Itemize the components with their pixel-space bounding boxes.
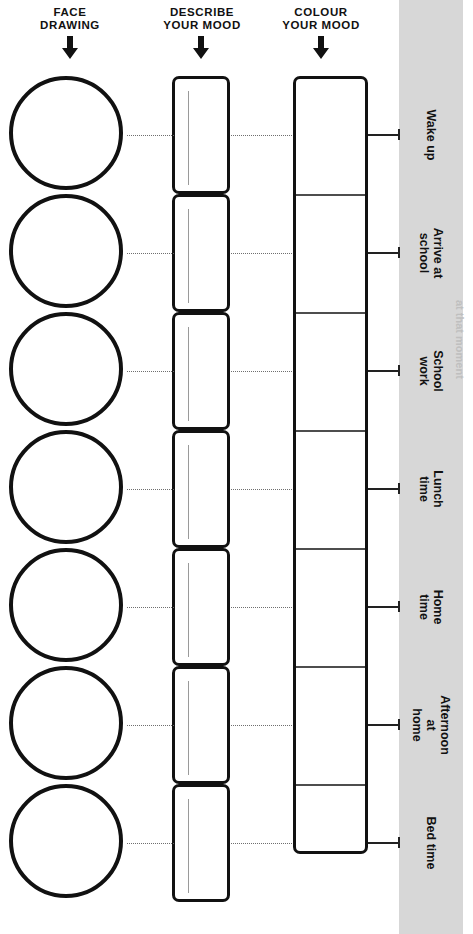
row-tick-cap — [398, 837, 400, 848]
row-tick-cap — [398, 129, 400, 140]
connector-face-to-describe — [127, 607, 174, 608]
time-of-day-label: Home time — [417, 575, 445, 639]
time-of-day-label: Arrive at school — [417, 221, 445, 285]
connector-face-to-describe — [127, 489, 174, 490]
describe-mood-box[interactable] — [172, 666, 230, 784]
connector-describe-to-colour — [231, 135, 294, 136]
describe-mood-box[interactable] — [172, 194, 230, 312]
column-header-colour-your-mood: COLOUR YOUR MOOD — [258, 6, 384, 31]
face-drawing-circle[interactable] — [9, 784, 123, 898]
connector-face-to-describe — [127, 253, 174, 254]
connector-describe-to-colour — [231, 489, 294, 490]
writing-rule-line — [188, 681, 189, 775]
connector-describe-to-colour — [231, 843, 294, 844]
connector-describe-to-colour — [231, 725, 294, 726]
colour-row-divider — [296, 430, 365, 432]
down-arrow-icon — [59, 36, 81, 60]
face-drawing-circle[interactable] — [9, 548, 123, 662]
connector-face-to-describe — [127, 843, 174, 844]
row-tick-line — [367, 370, 400, 372]
writing-rule-line — [188, 445, 189, 539]
row-tick-cap — [398, 365, 400, 376]
row-tick-line — [367, 134, 400, 136]
face-drawing-circle[interactable] — [9, 194, 123, 308]
colour-row-divider — [296, 666, 365, 668]
column-header-describe-your-mood: DESCRIBE YOUR MOOD — [140, 6, 264, 31]
connector-describe-to-colour — [231, 607, 294, 608]
connector-face-to-describe — [127, 135, 174, 136]
colour-row-divider — [296, 312, 365, 314]
worksheet-page: FACE DRAWING DESCRIBE YOUR MOOD COLOUR Y… — [0, 0, 473, 934]
describe-mood-box[interactable] — [172, 784, 230, 902]
face-drawing-circle[interactable] — [9, 76, 123, 190]
row-tick-cap — [398, 601, 400, 612]
row-tick-line — [367, 606, 400, 608]
time-of-day-label: Afternoon at home — [410, 693, 452, 757]
row-tick-cap — [398, 719, 400, 730]
time-of-day-label: Bed time — [424, 811, 438, 875]
row-tick-line — [367, 488, 400, 490]
face-drawing-circle[interactable] — [9, 312, 123, 426]
describe-mood-box[interactable] — [172, 548, 230, 666]
writing-rule-line — [188, 799, 189, 893]
row-tick-line — [367, 724, 400, 726]
row-tick-cap — [398, 483, 400, 494]
connector-describe-to-colour — [231, 253, 294, 254]
colour-row-divider — [296, 784, 365, 786]
column-header-face-drawing: FACE DRAWING — [8, 6, 132, 31]
describe-mood-box[interactable] — [172, 430, 230, 548]
writing-rule-line — [188, 209, 189, 303]
edge-note-text: at that moment — [454, 300, 466, 500]
row-tick-line — [367, 252, 400, 254]
time-of-day-label: School work — [417, 339, 445, 403]
face-drawing-circle[interactable] — [9, 430, 123, 544]
describe-mood-box[interactable] — [172, 312, 230, 430]
time-of-day-label: Wake up — [424, 103, 438, 167]
row-tick-cap — [398, 247, 400, 258]
writing-rule-line — [188, 91, 189, 185]
colour-row-divider — [296, 194, 365, 196]
writing-rule-line — [188, 563, 189, 657]
describe-mood-box[interactable] — [172, 76, 230, 194]
connector-describe-to-colour — [231, 371, 294, 372]
connector-face-to-describe — [127, 725, 174, 726]
face-drawing-circle[interactable] — [9, 666, 123, 780]
writing-rule-line — [188, 327, 189, 421]
row-tick-line — [367, 842, 400, 844]
down-arrow-icon — [190, 36, 212, 60]
down-arrow-icon — [310, 36, 332, 60]
time-of-day-label: Lunch time — [417, 457, 445, 521]
colour-row-divider — [296, 548, 365, 550]
colour-your-mood-column[interactable] — [293, 76, 368, 854]
connector-face-to-describe — [127, 371, 174, 372]
